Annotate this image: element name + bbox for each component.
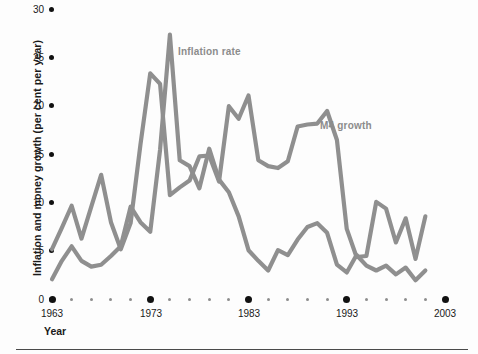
chart-figure: Inflation and money growth (per cent per…	[0, 0, 478, 354]
x-tick-dot-major-1993	[343, 296, 350, 303]
x-tick-label-1983: 1983	[229, 308, 269, 319]
x-tick-dot-minor-1999	[404, 298, 407, 301]
y-tick-label-30: 30	[10, 5, 44, 15]
x-tick-dot-minor-2001	[424, 298, 427, 301]
x-tick-dot-minor-1975	[168, 298, 171, 301]
x-tick-dot-minor-1977	[188, 298, 191, 301]
y-tick-dot-20	[49, 103, 54, 108]
series-line-inflation-rate	[52, 35, 425, 281]
annotation-inflation-rate: Inflation rate	[178, 46, 241, 57]
y-tick-dot-5	[49, 248, 54, 253]
y-tick-dot-10	[49, 200, 54, 205]
x-tick-dot-major-2003	[442, 296, 449, 303]
y-tick-dot-15	[49, 152, 54, 157]
x-axis-title: Year	[44, 325, 66, 337]
y-axis-ticks: 30 25 20 15 10 5 0	[8, 0, 44, 354]
x-tick-dot-minor-1981	[227, 298, 230, 301]
x-tick-dot-minor-1985	[267, 298, 270, 301]
x-tick-dot-minor-1965	[70, 298, 73, 301]
y-tick-label-15: 15	[10, 150, 44, 160]
y-tick-label-0: 0	[10, 295, 44, 305]
x-tick-label-1963: 1963	[32, 308, 72, 319]
x-tick-label-1993: 1993	[327, 308, 367, 319]
y-tick-dot-30	[49, 7, 54, 12]
y-tick-label-25: 25	[10, 53, 44, 63]
x-tick-dot-minor-1971	[129, 298, 132, 301]
x-tick-dot-major-1983	[245, 296, 252, 303]
y-tick-dot-25	[49, 55, 54, 60]
annotation-m4-growth: M4 growth	[320, 120, 372, 131]
y-tick-label-5: 5	[10, 246, 44, 256]
x-tick-dot-minor-1997	[385, 298, 388, 301]
x-tick-dot-minor-1991	[326, 298, 329, 301]
y-tick-label-10: 10	[10, 198, 44, 208]
x-tick-dot-major-1963	[49, 296, 56, 303]
x-tick-dot-minor-1967	[90, 298, 93, 301]
x-tick-dot-minor-1979	[208, 298, 211, 301]
x-tick-dot-minor-1987	[286, 298, 289, 301]
x-tick-label-1973: 1973	[131, 308, 171, 319]
series-line-m4-growth	[52, 73, 425, 259]
x-tick-dot-minor-1995	[365, 298, 368, 301]
x-tick-dot-major-1973	[147, 296, 154, 303]
x-tick-dot-minor-1989	[306, 298, 309, 301]
x-tick-label-2003: 2003	[425, 308, 465, 319]
x-tick-dot-minor-1969	[109, 298, 112, 301]
page-footer-rule	[16, 349, 468, 350]
y-tick-label-20: 20	[10, 101, 44, 111]
